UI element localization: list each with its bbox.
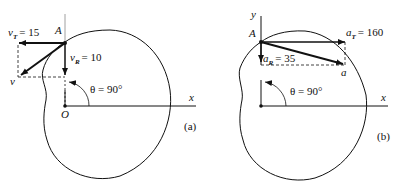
origin-label: O — [61, 108, 69, 120]
a-vector — [261, 42, 343, 64]
vT-label: vT= 15 — [8, 26, 40, 41]
figure-a: vT= 15 A vR= 10 v θ = 90° O x (a) — [8, 14, 197, 179]
panel-label-b: (b) — [377, 130, 390, 143]
theta-arc-b — [265, 82, 286, 106]
v-label: v — [10, 75, 15, 87]
point-A-label-b: A — [248, 27, 256, 39]
theta-label-a: θ = 90° — [90, 83, 122, 95]
x-axis-label-b: x — [380, 91, 386, 103]
figure-b: y A aT= 160 aR= 35 a θ = 90° x (b) — [239, 8, 390, 180]
a-label: a — [341, 66, 347, 78]
aT-label: aT= 160 — [346, 26, 384, 41]
y-axis-label-b: y — [250, 8, 256, 20]
vR-label: vR= 10 — [70, 51, 102, 66]
x-axis-label-a: x — [188, 91, 194, 103]
point-A-b — [259, 40, 263, 44]
panel-label-a: (a) — [184, 120, 197, 133]
origin-point-b — [259, 104, 263, 108]
diagram-canvas: vT= 15 A vR= 10 v θ = 90° O x (a) y A aT… — [0, 0, 399, 190]
point-A-a — [63, 41, 67, 45]
aR-label: aR= 35 — [263, 52, 296, 67]
theta-arc-a — [69, 82, 89, 106]
point-A-label-a: A — [54, 24, 62, 36]
theta-label-b: θ = 90° — [290, 85, 322, 97]
curve-a — [42, 30, 170, 179]
